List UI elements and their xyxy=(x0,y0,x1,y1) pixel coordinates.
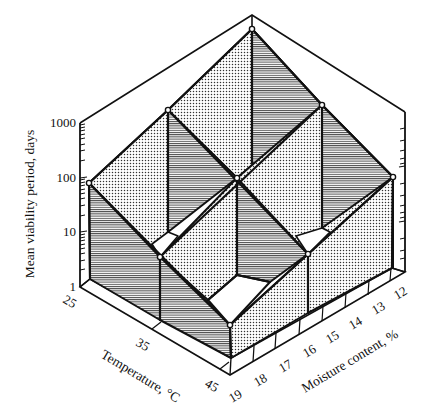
z-tick-1000: 1000 xyxy=(50,115,76,130)
point-t35-m19 xyxy=(157,254,162,259)
point-t25-m12 xyxy=(249,26,254,31)
x-axis-title: Temperature, °C xyxy=(98,347,182,406)
point-t35-m12 xyxy=(319,102,324,107)
y-tick-19: 19 xyxy=(226,386,245,406)
x-tick-35: 35 xyxy=(134,335,153,354)
y-tick-18: 18 xyxy=(251,370,270,390)
point-t25-m19 xyxy=(86,180,91,185)
y-tick-13: 13 xyxy=(369,298,388,318)
z-axis-left xyxy=(80,123,87,287)
z-tick-1: 1 xyxy=(70,279,77,294)
y-tick-15: 15 xyxy=(323,327,342,347)
y-axis-title: Moisture content, % xyxy=(299,326,401,395)
z-tick-10: 10 xyxy=(63,224,76,239)
x-tick-45: 45 xyxy=(203,376,222,395)
point-t45-m15 xyxy=(305,251,310,256)
viability-3d-chart: 1000 100 10 1 Mean viability period, day… xyxy=(0,0,426,416)
point-t45-m19 xyxy=(227,322,232,327)
z-tick-100: 100 xyxy=(57,170,77,185)
y-tick-16: 16 xyxy=(300,341,319,361)
x-tick-25: 25 xyxy=(61,292,80,311)
z-axis-right xyxy=(399,112,405,272)
point-t25-m15 xyxy=(165,107,170,112)
y-tick-12: 12 xyxy=(391,283,410,303)
point-t45-m12 xyxy=(390,174,395,179)
point-t35-m15 xyxy=(234,175,239,180)
y-tick-14: 14 xyxy=(346,313,365,333)
z-axis-title: Mean viability period, days xyxy=(22,130,37,278)
y-tick-17: 17 xyxy=(276,356,295,376)
